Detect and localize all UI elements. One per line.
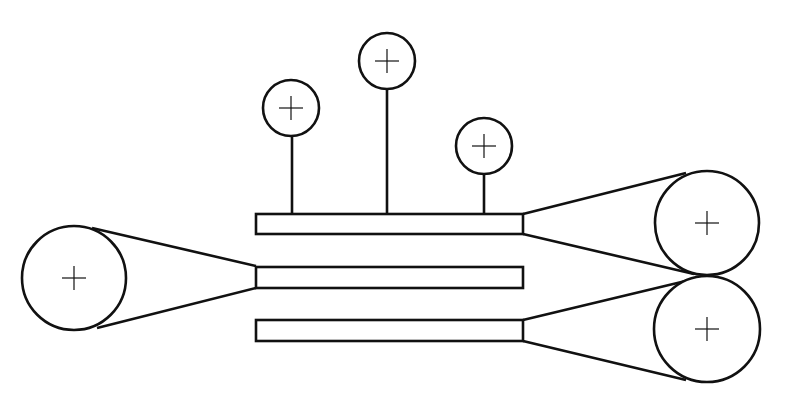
- belt-pulley-diagram: [0, 0, 789, 394]
- pulley-right-bottom: [654, 276, 760, 382]
- pulley-left: [22, 226, 126, 330]
- bar-middle: [256, 267, 523, 288]
- guide-roller-3: [456, 118, 512, 174]
- bar-bottom: [256, 320, 523, 341]
- guide-roller-1: [263, 80, 319, 136]
- bar-top: [256, 214, 523, 234]
- guide-roller-2: [359, 33, 415, 89]
- pulley-right-top: [655, 171, 759, 275]
